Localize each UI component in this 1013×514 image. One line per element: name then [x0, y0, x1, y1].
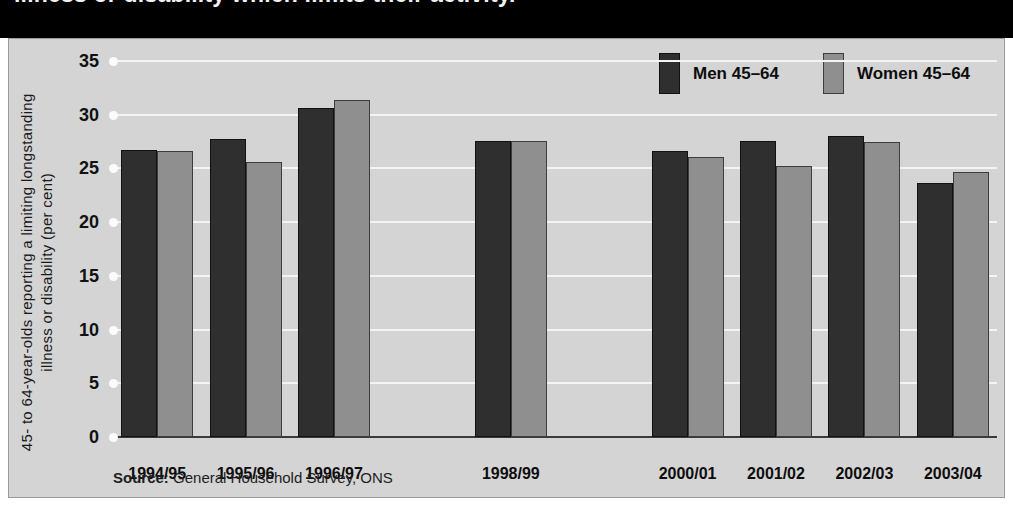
- y-tick-marker: [109, 272, 118, 281]
- bar-men: [475, 141, 511, 438]
- bar-women: [864, 142, 900, 437]
- y-tick-label: 10: [57, 321, 99, 339]
- y-tick-label: 5: [57, 374, 99, 392]
- source-label: Source:: [113, 469, 169, 486]
- y-tick-marker: [109, 164, 118, 173]
- bar-women: [688, 157, 724, 437]
- y-tick-marker: [109, 218, 118, 227]
- y-tick-marker: [109, 111, 118, 120]
- y-tick-label: 15: [57, 267, 99, 285]
- bar-women: [776, 166, 812, 437]
- gridline: [113, 114, 997, 116]
- y-tick-marker: [109, 326, 118, 335]
- bar-men: [210, 139, 246, 437]
- bar-women: [511, 141, 547, 438]
- y-tick-label: 35: [57, 52, 99, 70]
- y-tick-label: 25: [57, 159, 99, 177]
- title-banner: illness or disability which limits their…: [0, 0, 1013, 38]
- source-value: General Household Survey, ONS: [169, 469, 393, 486]
- bar-men: [740, 141, 776, 438]
- y-axis-label: 45- to 64-year-olds reporting a limiting…: [17, 77, 58, 467]
- bar-men: [298, 108, 334, 437]
- bar-men: [121, 150, 157, 437]
- chart-panel: 45- to 64-year-olds reporting a limiting…: [8, 38, 1005, 498]
- bar-men: [652, 151, 688, 437]
- y-tick-label: 20: [57, 213, 99, 231]
- page-title: illness or disability which limits their…: [14, 0, 516, 8]
- y-tick-marker: [109, 57, 118, 66]
- plot-area: 051015202530351994/951995/961996/971998/…: [113, 61, 997, 437]
- bar-women: [953, 172, 989, 437]
- bar-women: [157, 151, 193, 437]
- bar-men: [828, 136, 864, 437]
- y-tick-marker: [109, 379, 118, 388]
- gridline: [113, 60, 997, 62]
- figure-container: illness or disability which limits their…: [0, 0, 1013, 514]
- y-tick-label: 30: [57, 106, 99, 124]
- x-axis-label: 2003/04: [893, 465, 1013, 483]
- x-axis-label: 1998/99: [451, 465, 571, 483]
- bar-men: [917, 183, 953, 437]
- source-note: Source: General Household Survey, ONS: [113, 469, 393, 486]
- bar-women: [246, 162, 282, 437]
- y-tick-marker: [109, 433, 118, 442]
- y-tick-label: 0: [57, 428, 99, 446]
- bar-women: [334, 100, 370, 437]
